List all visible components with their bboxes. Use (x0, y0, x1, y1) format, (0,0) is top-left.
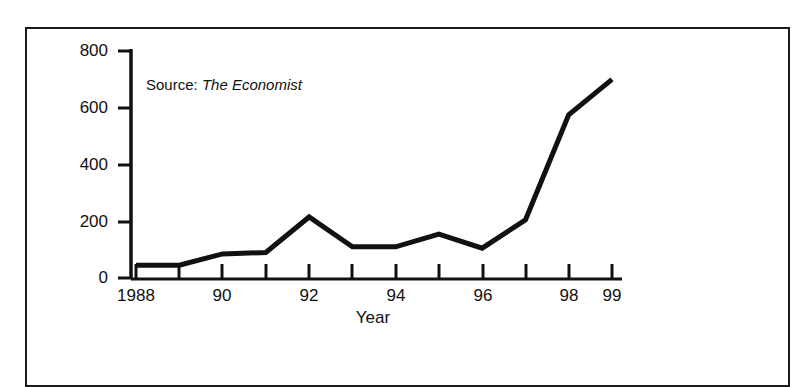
y-tick-label-800: 800 (62, 41, 108, 61)
x-axis-ticks (136, 264, 612, 279)
y-tick-label-200: 200 (62, 212, 108, 232)
data-series-line (136, 79, 612, 265)
x-axis-title: Year (313, 308, 433, 328)
x-tick-label-1988: 1988 (108, 286, 164, 306)
x-tick-label-94: 94 (368, 286, 424, 306)
source-annotation: Source: The Economist (146, 76, 302, 93)
x-tick-label-90: 90 (194, 286, 250, 306)
x-tick-label-92: 92 (281, 286, 337, 306)
source-prefix: Source: (146, 76, 198, 93)
x-tick-label-99: 99 (584, 286, 640, 306)
y-tick-label-0: 0 (62, 268, 108, 288)
y-tick-label-400: 400 (62, 155, 108, 175)
source-publication: The Economist (202, 76, 302, 93)
y-tick-label-600: 600 (62, 98, 108, 118)
y-axis-ticks (118, 51, 131, 278)
x-tick-label-96: 96 (455, 286, 511, 306)
